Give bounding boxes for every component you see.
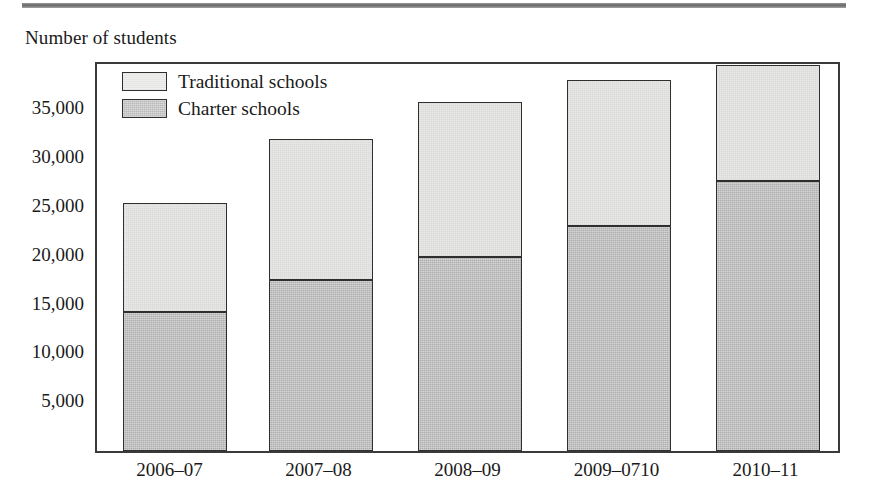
x-tick-label: 2008–09 [393,459,542,481]
bar-stack[interactable] [269,139,373,451]
y-tick-label: 5,000 [6,390,84,412]
bar-segment-traditional[interactable] [567,80,671,226]
y-axis-labels: 5,00010,00015,00020,00025,00030,00035,00… [0,0,84,504]
legend-swatch-traditional-icon [122,72,167,91]
chart-legend: Traditional schools Charter schools [122,68,327,122]
bar-segment-traditional[interactable] [418,102,522,258]
bar-segment-charter[interactable] [418,257,522,451]
bar-stack[interactable] [567,80,671,451]
bar-stack[interactable] [418,102,522,451]
bar-stack[interactable] [716,65,820,451]
x-tick-label: 2009–0710 [542,459,691,481]
x-tick-label: 2007–08 [244,459,393,481]
x-tick-label: 2006–07 [95,459,244,481]
x-tick-label: 2010–11 [691,459,840,481]
y-tick-label: 10,000 [6,341,84,363]
y-tick-label: 25,000 [6,195,84,217]
legend-swatch-charter-icon [122,99,167,118]
y-tick-label: 30,000 [6,146,84,168]
bar-stack[interactable] [123,203,227,451]
bar-segment-traditional[interactable] [269,139,373,280]
legend-item-charter: Charter schools [122,95,327,122]
bar-segment-traditional[interactable] [123,203,227,312]
y-tick-label: 20,000 [6,244,84,266]
bar-segment-traditional[interactable] [716,65,820,180]
header-rule [22,3,846,8]
bar-segment-charter[interactable] [567,226,671,451]
legend-label-traditional: Traditional schools [178,71,327,93]
plot-area [97,64,838,451]
legend-label-charter: Charter schools [178,98,300,120]
legend-item-traditional: Traditional schools [122,68,327,95]
y-tick-label: 35,000 [6,97,84,119]
bar-segment-charter[interactable] [123,312,227,451]
bar-segment-charter[interactable] [269,280,373,451]
bar-segment-charter[interactable] [716,181,820,451]
y-tick-label: 15,000 [6,293,84,315]
